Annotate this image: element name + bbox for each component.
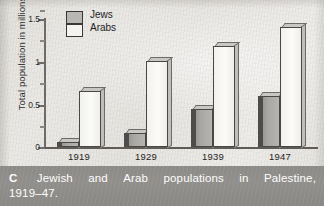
bar-front-face	[280, 27, 302, 147]
x-tick-label-1947: 1947	[257, 151, 303, 162]
bar-jews-1929	[124, 133, 146, 147]
bar-arabs-1919	[79, 91, 101, 147]
y-minor-tick-0.75	[40, 83, 45, 85]
y-tick-label-0.5: 0.5	[16, 100, 40, 110]
x-tick-label-1929: 1929	[123, 151, 169, 162]
bar-shadow-edge	[191, 109, 196, 147]
bar-jews-1947	[258, 96, 280, 147]
caption-letter: C	[9, 171, 17, 186]
caption-line-1: C Jewish and Arab populations in Palesti…	[9, 171, 316, 186]
x-tick-label-1919: 1919	[56, 151, 102, 162]
bar-jews-1919	[57, 142, 79, 147]
legend-label-arabs: Arabs	[90, 22, 116, 33]
caption-word-4: in	[239, 171, 248, 186]
bar-chart: Total population in millions 1.5 1 0.5 0…	[0, 0, 324, 166]
bar-shadow-edge	[57, 142, 62, 147]
legend: Jews Arabs	[66, 10, 161, 40]
figure-plate: Total population in millions 1.5 1 0.5 0…	[0, 0, 324, 206]
bar-front-face	[146, 61, 168, 147]
legend-swatch-jews	[66, 11, 83, 24]
bar-arabs-1947	[280, 27, 302, 147]
figure-caption: C Jewish and Arab populations in Palesti…	[9, 171, 316, 201]
bar-front-face	[213, 46, 235, 147]
caption-line-2: 1919–47.	[9, 186, 316, 201]
legend-swatch-arabs	[66, 24, 83, 37]
caption-word-3: populations	[164, 171, 224, 186]
y-tick-label-1.5: 1.5	[16, 14, 40, 24]
bar-shadow-edge	[124, 133, 129, 147]
x-tick-label-1939: 1939	[190, 151, 236, 162]
caption-word-2: Arab	[123, 171, 148, 186]
y-minor-tick-1.25	[40, 40, 45, 42]
y-minor-tick-1.55	[40, 10, 45, 12]
y-minor-tick-0.25	[40, 126, 45, 128]
bar-shadow-edge	[258, 96, 263, 147]
caption-word-1: and	[88, 171, 108, 186]
x-axis-line	[44, 147, 318, 149]
y-tick-label-1: 1	[16, 57, 40, 67]
legend-label-jews: Jews	[90, 9, 113, 20]
bar-arabs-1939	[213, 46, 235, 147]
caption-word-5: Palestine,	[264, 171, 316, 186]
legend-swatches	[66, 11, 83, 38]
figure-caption-band: C Jewish and Arab populations in Palesti…	[0, 166, 324, 206]
bar-front-face	[79, 91, 101, 147]
bar-jews-1939	[191, 109, 213, 147]
bar-arabs-1929	[146, 61, 168, 147]
caption-word-0: Jewish	[37, 171, 73, 186]
y-tick-label-0: 0	[16, 142, 40, 152]
